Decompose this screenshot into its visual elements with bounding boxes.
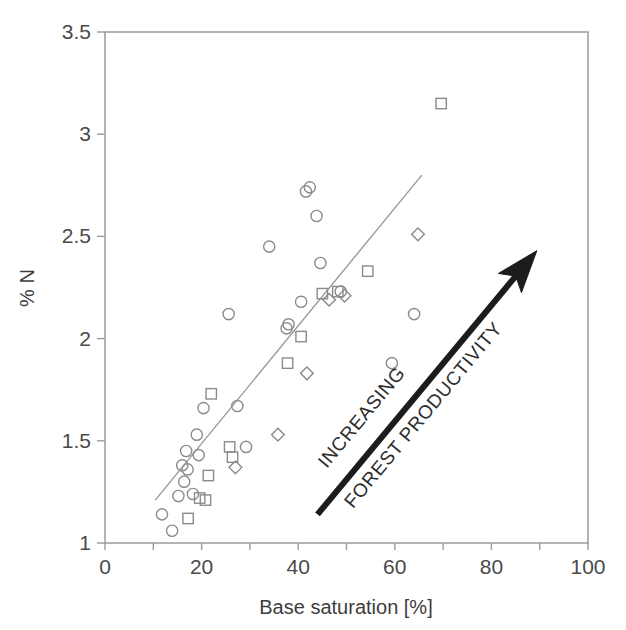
x-axis-tick-labels: 020406080100 (99, 555, 605, 578)
data-point-circle (240, 441, 251, 452)
data-point-circle (198, 402, 209, 413)
data-point-diamond (301, 367, 314, 380)
arrow-shaft (318, 275, 517, 514)
data-point-circle (295, 296, 306, 307)
forest-productivity-arrow (318, 251, 537, 515)
y-tick-label: 2 (79, 327, 91, 350)
data-point-circle (187, 488, 198, 499)
data-point-diamond (412, 228, 425, 241)
data-point-circle (191, 429, 202, 440)
data-point-circle (409, 308, 420, 319)
data-point-circle (335, 286, 346, 297)
data-point-diamond (272, 428, 285, 441)
data-markers-layer (156, 98, 446, 536)
y-tick-label: 3.5 (62, 20, 91, 43)
plot-canvas: 020406080100 11.522.533.5 INCREASING FOR… (0, 0, 626, 630)
data-point-square (436, 98, 446, 108)
data-point-circle (311, 210, 322, 221)
y-tick-label: 1.5 (62, 429, 91, 452)
data-point-square (203, 470, 213, 480)
x-axis-title: Base saturation [%] (259, 596, 432, 618)
scatter-plot-figure: 020406080100 11.522.533.5 INCREASING FOR… (0, 0, 626, 630)
data-point-circle (173, 490, 184, 501)
data-point-circle (167, 525, 178, 536)
x-tick-label: 20 (190, 555, 213, 578)
data-point-circle (283, 319, 294, 330)
data-point-square (224, 442, 234, 452)
y-axis-tick-labels: 11.522.533.5 (62, 20, 91, 554)
y-tick-label: 2.5 (62, 224, 91, 247)
data-point-circle (232, 400, 243, 411)
y-axis-title: % N (16, 269, 38, 307)
data-point-square (183, 513, 193, 523)
data-point-diamond (323, 293, 336, 306)
data-point-circle (264, 241, 275, 252)
x-tick-label: 100 (570, 555, 605, 578)
x-axis-ticks (105, 543, 588, 550)
x-tick-label: 80 (480, 555, 503, 578)
data-point-circle (181, 445, 192, 456)
data-point-circle (193, 449, 204, 460)
data-point-square (282, 358, 292, 368)
data-point-circle (223, 308, 234, 319)
y-axis-ticks (97, 32, 105, 543)
data-point-circle (179, 476, 190, 487)
data-point-circle (156, 509, 167, 520)
data-point-square (296, 331, 306, 341)
data-point-circle (315, 257, 326, 268)
data-point-square (206, 389, 216, 399)
x-tick-label: 60 (383, 555, 406, 578)
x-tick-label: 0 (99, 555, 111, 578)
y-tick-label: 3 (79, 122, 91, 145)
data-point-square (363, 266, 373, 276)
x-tick-label: 40 (287, 555, 310, 578)
y-tick-label: 1 (79, 531, 91, 554)
